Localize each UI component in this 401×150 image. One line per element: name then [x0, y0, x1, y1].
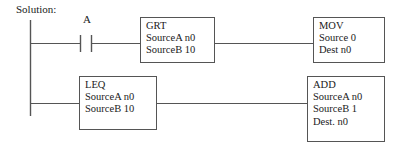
block-leq-line-1: LEQ: [85, 79, 156, 91]
block-add-line-3: SourceB 1: [313, 103, 384, 115]
block-grt-line-1: GRT: [146, 20, 214, 32]
block-grt-line-3: SourceB 10: [146, 44, 214, 56]
block-mov-line-3: Dest n0: [319, 44, 384, 56]
instruction-block-grt[interactable]: GRT SourceA n0 SourceB 10: [140, 17, 215, 63]
contact-label-a: A: [83, 13, 91, 25]
block-add-line-4: Dest. n0: [313, 116, 384, 128]
block-leq-line-3: SourceB 10: [85, 103, 156, 115]
instruction-block-add[interactable]: ADD SourceA n0 SourceB 1 Dest. n0: [307, 76, 385, 142]
block-mov-line-2: Source 0: [319, 32, 384, 44]
instruction-block-mov[interactable]: MOV Source 0 Dest n0: [313, 17, 385, 63]
block-leq-line-2: SourceA n0: [85, 91, 156, 103]
block-mov-line-1: MOV: [319, 20, 384, 32]
ladder-logic-diagram: Solution: A GRT SourceA n0 SourceB 10 MO…: [0, 0, 401, 150]
block-add-line-2: SourceA n0: [313, 91, 384, 103]
block-grt-line-2: SourceA n0: [146, 32, 214, 44]
instruction-block-leq[interactable]: LEQ SourceA n0 SourceB 10: [79, 76, 157, 130]
block-add-line-1: ADD: [313, 79, 384, 91]
